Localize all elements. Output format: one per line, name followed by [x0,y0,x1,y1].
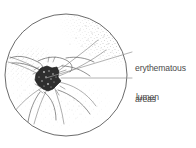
figure-page: erythematous areas lumen [0,0,196,148]
label-lumen: lumen [136,71,159,123]
label-lumen-line1: lumen [136,92,159,102]
